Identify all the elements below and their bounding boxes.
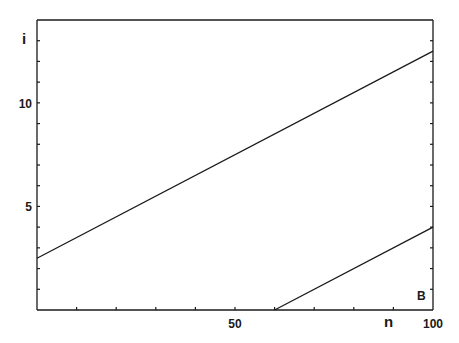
x-axis-label: n xyxy=(384,314,393,329)
line-chart: i 10 5 50 100 n B xyxy=(0,0,459,343)
series-line-0 xyxy=(37,51,433,258)
x-tick-label-100: 100 xyxy=(413,318,453,330)
y-axis-label: i xyxy=(22,31,26,46)
plot-area xyxy=(0,0,459,343)
y-tick-label-10: 10 xyxy=(2,98,32,110)
x-tick-label-50: 50 xyxy=(215,318,255,330)
series-line-1 xyxy=(275,227,433,310)
panel-label: B xyxy=(417,290,426,302)
y-tick-label-5: 5 xyxy=(2,201,32,213)
